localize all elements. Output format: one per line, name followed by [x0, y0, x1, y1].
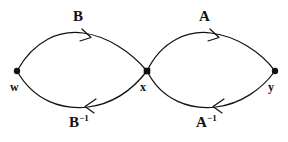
edge-label-A-inverse-base: A: [196, 114, 207, 130]
edge-group-A: [147, 29, 275, 71]
edge-label-A-text: A: [199, 8, 210, 24]
edge-label-B-inverse: B−1: [69, 114, 89, 130]
edge-path-A: [147, 32, 275, 71]
edge-label-B-inverse-base: B: [69, 114, 79, 130]
edge-label-A: A: [199, 9, 210, 24]
vertex-label-w: w: [10, 81, 19, 93]
edge-label-B: B: [73, 9, 83, 24]
vertex-dot-y: [272, 68, 278, 74]
vertex-dot-w: [14, 68, 20, 74]
edge-group-B: [17, 29, 147, 71]
edge-path-B: [17, 32, 147, 71]
edge-label-B-inverse-exponent: −1: [79, 113, 89, 123]
arrowhead-B-icon: [80, 29, 91, 41]
graph-diagram-svg: [0, 0, 288, 142]
edge-label-B-text: B: [73, 8, 83, 24]
edge-label-A-inverse-exponent: −1: [207, 113, 217, 123]
edge-group-A-inverse: [147, 71, 275, 113]
vertex-dot-x: [144, 68, 151, 75]
arrowhead-A-icon: [208, 29, 219, 41]
diagram-canvas: B A B−1 A−1 w x y: [0, 0, 288, 142]
edge-path-A-inverse: [147, 71, 275, 108]
edge-group-B-inverse: [17, 71, 147, 113]
vertex-label-x: x: [140, 81, 146, 93]
edge-label-A-inverse: A−1: [196, 114, 217, 130]
vertex-label-y: y: [268, 81, 274, 93]
edge-path-B-inverse: [17, 71, 147, 108]
